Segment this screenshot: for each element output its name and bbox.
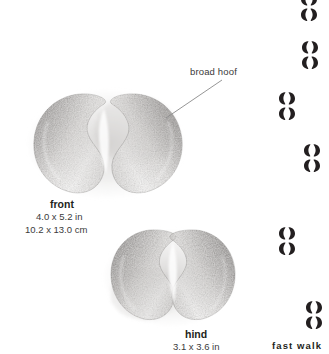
front-track-name: front [50,198,74,210]
broad-hoof-label: broad hoof [190,66,237,77]
gait-print-group [301,300,327,334]
gait-print-group [274,91,300,125]
gait-print-group [297,40,323,74]
hind-track-illustration [100,222,240,332]
hind-track-measure-inches: 3.1 x 3.6 in [173,341,219,352]
gait-caption-fast-walk: fast walk [272,340,322,351]
front-track-measure-inches: 4.0 x 5.2 in [36,211,82,222]
front-track-measure-cm: 10.2 x 13.0 cm [25,224,87,235]
hind-track-name: hind [185,328,207,340]
gait-print-group [299,143,325,177]
gait-print-group [274,226,300,260]
broad-hoof-leader-line [160,78,224,120]
gait-print-group [296,0,322,26]
track-guide-page: broad hoof front 4.0 x 5.2 in 10.2 x 13.… [0,0,329,354]
